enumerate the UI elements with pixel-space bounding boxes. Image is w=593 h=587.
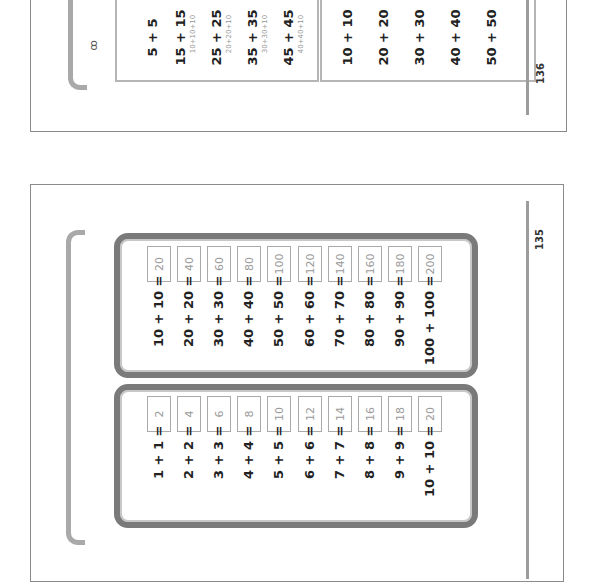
top-left-hint-2: 10+10+10: [189, 4, 197, 64]
equation: 70 + 70 =: [332, 276, 347, 372]
equation: 90 + 90 =: [392, 276, 407, 372]
equation: 8 + 8 =: [362, 426, 377, 522]
top-right-row-2: 20 + 20: [376, 3, 391, 73]
ones-row: 6 3 + 3 =: [205, 396, 231, 516]
equation: 50 + 50 =: [271, 276, 286, 372]
page-bracket: [66, 230, 85, 545]
ones-row: 4 2 + 2 =: [175, 396, 201, 516]
top-left-row-1: 5 + 5: [145, 8, 160, 68]
tens-row: 200 100 + 100 =: [416, 246, 442, 366]
tens-row: 20 10 + 10 =: [145, 246, 171, 366]
tens-row: 100 50 + 50 =: [265, 246, 291, 366]
page-rule: [526, 201, 529, 579]
equation: 3 + 3 =: [211, 426, 226, 522]
equation: 100 + 100 =: [422, 276, 437, 372]
equation: 7 + 7 =: [332, 426, 347, 522]
top-right-row-1: 10 + 10: [340, 3, 355, 73]
equation: 2 + 2 =: [181, 426, 196, 522]
equation: 60 + 60 =: [302, 276, 317, 372]
tens-row: 40 20 + 20 =: [175, 246, 201, 366]
ones-row: 2 1 + 1 =: [145, 396, 171, 516]
ones-row: 8 4 + 4 =: [235, 396, 261, 516]
top-left-hint-3: 20+20+10: [225, 4, 233, 64]
ones-row: 10 5 + 5 =: [265, 396, 291, 516]
tens-row: 120 60 + 60 =: [296, 246, 322, 366]
top-left-row-3: 25 + 25: [209, 8, 224, 68]
top-right-row-3: 30 + 30: [412, 3, 427, 73]
equation: 40 + 40 =: [241, 276, 256, 372]
top-right-row-4: 40 + 40: [448, 3, 463, 73]
equation: 30 + 30 =: [211, 276, 226, 372]
ones-row: 12 6 + 6 =: [296, 396, 322, 516]
equation: 1 + 1 =: [151, 426, 166, 522]
equation: 10 + 10 =: [151, 276, 166, 372]
tens-row: 140 70 + 70 =: [326, 246, 352, 366]
equation: 9 + 9 =: [392, 426, 407, 522]
top-left-row-2: 15 + 15: [173, 8, 188, 68]
equation: 80 + 80 =: [362, 276, 377, 372]
equation: 5 + 5 =: [271, 426, 286, 522]
tens-row: 180 90 + 90 =: [386, 246, 412, 366]
equation: 6 + 6 =: [302, 426, 317, 522]
tens-row: 160 80 + 80 =: [356, 246, 382, 366]
top-right-row-5: 50 + 50: [484, 3, 499, 73]
ones-row: 20 10 + 10 =: [416, 396, 442, 516]
top-left-row-4: 35 + 35: [245, 8, 260, 68]
equation: 20 + 20 =: [181, 276, 196, 372]
equation: 4 + 4 =: [241, 426, 256, 522]
ones-row: 18 9 + 9 =: [386, 396, 412, 516]
top-bracket: [68, 0, 87, 90]
equation: 10 + 10 =: [422, 426, 437, 522]
ones-row: 14 7 + 7 =: [326, 396, 352, 516]
ones-row: 16 8 + 8 =: [356, 396, 382, 516]
top-page-rule: [526, 0, 529, 115]
page-number-135: 135: [534, 229, 545, 250]
top-left-hint-5: 40+40+10: [297, 4, 305, 64]
top-left-hint-4: 30+30+10: [261, 4, 269, 64]
tens-row: 60 30 + 30 =: [205, 246, 231, 366]
top-left-row-5: 45 + 45: [281, 8, 296, 68]
operation-icon: ꝏ: [88, 40, 99, 50]
page-number-136: 136: [535, 63, 546, 84]
tens-row: 80 40 + 40 =: [235, 246, 261, 366]
